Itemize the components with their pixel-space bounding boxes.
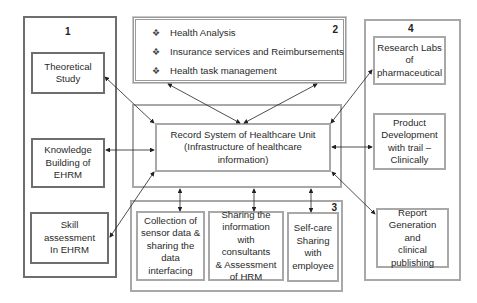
arrow-research-center xyxy=(331,70,372,123)
arrow-report-center xyxy=(332,172,375,214)
arrow-group2-center-left xyxy=(168,84,240,123)
arrow-skill-center xyxy=(110,172,154,237)
connector-arrows xyxy=(0,0,477,303)
arrow-group2-center-right xyxy=(244,84,317,123)
arrow-theoretical-center xyxy=(105,77,154,123)
